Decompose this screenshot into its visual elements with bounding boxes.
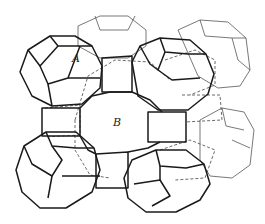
label-a: A (72, 52, 80, 65)
zeolite-diagram: A B (0, 0, 265, 224)
framework-drawing (0, 0, 265, 224)
label-b: B (113, 116, 121, 129)
